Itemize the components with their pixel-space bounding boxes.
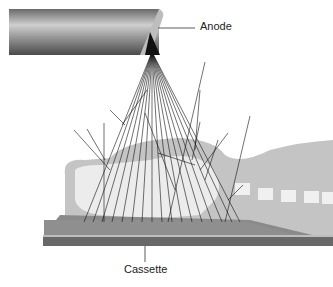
anode-label: Anode (200, 20, 232, 32)
xray-tube (9, 9, 163, 55)
xray-diagram (0, 0, 333, 287)
cassette-label: Cassette (124, 263, 167, 275)
